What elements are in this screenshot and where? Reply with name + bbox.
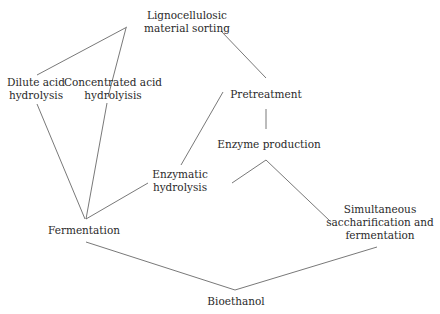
node-label: material sorting: [144, 22, 230, 35]
node-label: Fermentation: [48, 224, 120, 237]
edge-enzhyd-enzprod-ssf: [232, 160, 330, 221]
node-label: Bioethanol: [207, 295, 264, 308]
node-lignocellulosic-material-sorting: Lignocellulosic material sorting: [144, 9, 230, 35]
node-concentrated-acid-hydrolysis: Concentrated acid hydrolyisis: [64, 76, 162, 102]
connector-lines: [0, 0, 440, 314]
process-diagram: Lignocellulosic material sorting Dilute …: [0, 0, 440, 314]
edge-pretreat-enzhyd: [181, 92, 223, 165]
node-label: Concentrated acid: [64, 76, 162, 89]
node-pretreatment: Pretreatment: [230, 88, 301, 101]
node-enzymatic-hydrolysis: Enzymatic hydrolysis: [152, 168, 208, 194]
node-label: saccharification and: [326, 216, 434, 229]
node-bioethanol: Bioethanol: [207, 295, 264, 308]
edge-ligno-pretreat: [221, 31, 266, 78]
node-label: hydrolyisis: [64, 89, 162, 102]
node-label: Simultaneous: [326, 203, 434, 216]
node-label: Enzymatic: [152, 168, 208, 181]
edge-conc-ferm: [86, 103, 107, 219]
node-label: Enzyme production: [217, 138, 321, 151]
edge-ferm-bioeth-ssf: [86, 242, 377, 290]
node-label: Lignocellulosic: [144, 9, 230, 22]
node-label: Pretreatment: [230, 88, 301, 101]
node-label: Dilute acid: [7, 76, 65, 89]
node-label: hydrolysis: [152, 181, 208, 194]
node-label: hydrolysis: [7, 89, 65, 102]
node-enzyme-production: Enzyme production: [217, 138, 321, 151]
node-simultaneous-saccharification-fermentation: Simultaneous saccharification and fermen…: [326, 203, 434, 242]
edge-enzhyd-ferm: [86, 183, 148, 219]
edge-dilute-ferm: [37, 104, 85, 219]
node-fermentation: Fermentation: [48, 224, 120, 237]
edge-ligno-dilute: [37, 27, 127, 75]
node-label: fermentation: [326, 229, 434, 242]
node-dilute-acid-hydrolysis: Dilute acid hydrolysis: [7, 76, 65, 102]
